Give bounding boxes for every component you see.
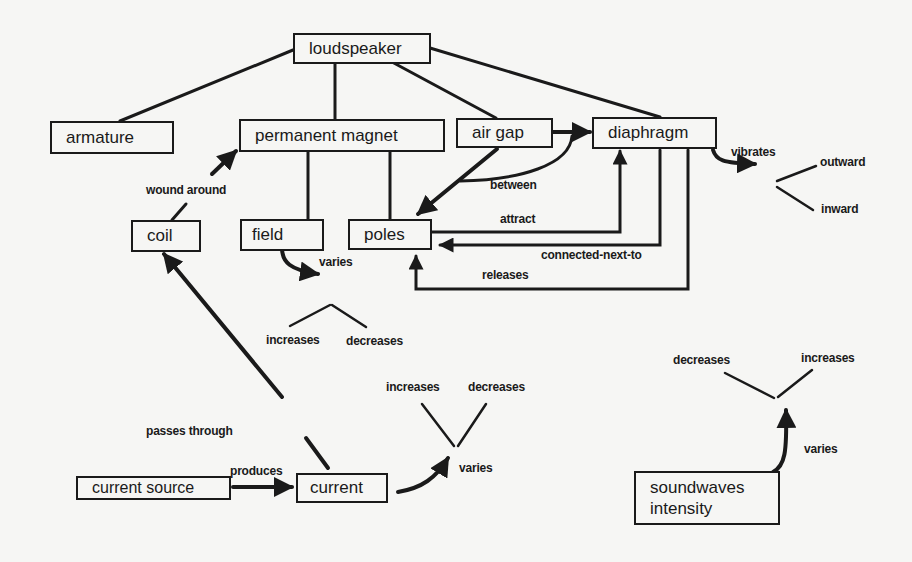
label-sound-varies: varies [804,442,838,456]
branch-current-decreases [458,404,486,446]
value-field-increases: increases [266,333,320,347]
edge-field-varies [282,248,318,274]
node-label: field [252,225,283,245]
label-attract: attract [500,212,535,226]
node-label: air gap [472,123,524,143]
edge-wound-magnet [212,151,236,174]
value-field-decreases: decreases [346,334,403,348]
edge-current-varies [398,458,448,492]
label-wound-around: wound around [146,183,226,197]
node-label: current source [92,479,194,497]
label-passes-through: passes through [146,424,233,438]
node-current-source[interactable]: current source [76,476,231,500]
edge-current-passes [306,438,328,468]
value-inward: inward [821,202,858,216]
branch-sound-increases [778,370,812,397]
node-label: coil [147,226,173,246]
label-field-varies: varies [319,255,353,269]
edge-sound-varies [773,410,786,472]
value-sound-decreases: decreases [673,353,730,367]
branch-sound-decreases [725,373,774,398]
node-label-line2: intensity [650,498,712,519]
node-label: current [310,478,363,498]
value-current-increases: increases [386,380,440,394]
node-loudspeaker[interactable]: loudspeaker [293,33,431,64]
node-armature[interactable]: armature [50,121,174,154]
node-air-gap[interactable]: air gap [456,118,553,148]
value-outward: outward [820,155,865,169]
node-label-line1: soundwaves [650,477,745,498]
edge-loudspeaker-armature [120,50,293,121]
node-diaphragm[interactable]: diaphragm [592,117,717,149]
edge-loudspeaker-airgap [392,62,496,118]
node-label: armature [66,128,134,148]
label-produces: produces [230,464,282,478]
value-current-decreases: decreases [468,380,525,394]
node-label: permanent magnet [255,126,398,146]
edge-diaphragm-poles-releases [416,150,688,289]
node-permanent-magnet[interactable]: permanent magnet [239,119,445,152]
edge-airgap-poles [418,149,497,214]
branch-outward [777,166,816,181]
node-soundwaves-intensity[interactable]: soundwaves intensity [634,471,780,525]
label-vibrates: vibrates [731,145,775,159]
branch-field-decreases [332,305,366,327]
node-label: loudspeaker [309,39,402,59]
edge-passes-coil [164,254,282,397]
branch-inward [777,187,813,210]
branch-current-increases [422,404,454,446]
node-coil[interactable]: coil [131,220,201,252]
node-label: poles [364,225,405,245]
label-connected-next-to: connected-next-to [541,248,642,262]
edge-coil-wound [172,204,186,220]
branch-field-increases [290,305,330,326]
label-releases: releases [482,268,528,282]
node-label: diaphragm [608,123,688,143]
node-poles[interactable]: poles [348,219,432,250]
node-current[interactable]: current [296,473,388,503]
node-field[interactable]: field [240,219,324,251]
edge-loudspeaker-diaphragm [430,48,660,117]
label-between: between [490,178,537,192]
value-sound-increases: increases [801,351,855,365]
label-current-varies: varies [459,461,493,475]
